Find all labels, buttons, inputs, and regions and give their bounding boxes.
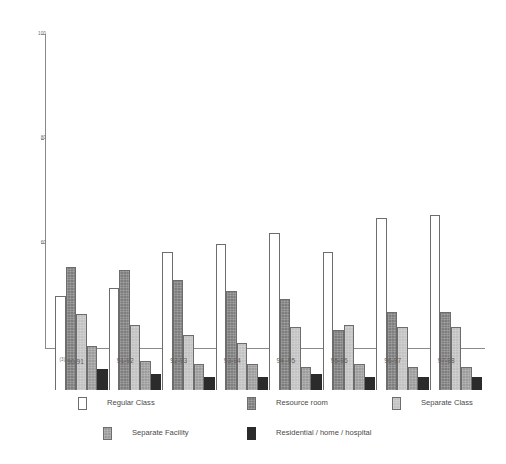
bar (247, 364, 258, 390)
bar (97, 369, 108, 390)
legend-swatch-icon (78, 397, 87, 410)
legend-item[interactable]: Regular Class (78, 397, 155, 410)
bar (216, 244, 227, 390)
bar-group (323, 76, 376, 390)
legend-item[interactable]: Separate Facility (103, 427, 189, 440)
y-axis-tick-mark (41, 34, 44, 35)
legend-item[interactable]: Residential / home / hospital (247, 427, 371, 440)
bar (140, 361, 151, 390)
y-axis-tick-mark (41, 139, 44, 140)
bar (66, 267, 77, 390)
x-axis-label: 92-93 (148, 358, 210, 365)
x-axis-label: 97-98 (416, 358, 478, 365)
bar (387, 312, 398, 390)
legend-item-label: Resource room (276, 399, 328, 407)
bar (109, 288, 120, 390)
x-axis-label: (3) 90-91 (41, 358, 103, 366)
bar-group (216, 76, 269, 390)
bar-group (430, 76, 483, 390)
x-axis-label: 96-97 (362, 358, 424, 365)
y-axis-tick-mark (41, 243, 44, 244)
bar (440, 312, 451, 390)
legend-item-label: Separate Facility (132, 429, 189, 437)
legend-item-label: Residential / home / hospital (276, 429, 371, 437)
bar (408, 367, 419, 391)
bar (226, 291, 237, 390)
bar (162, 252, 173, 390)
bar (173, 280, 184, 390)
legend-item-label: Regular Class (107, 399, 155, 407)
bar (237, 343, 248, 390)
legend-item-label: Separate Class (421, 399, 473, 407)
legend-swatch-icon (247, 427, 256, 440)
bar (301, 367, 312, 391)
x-axis-label-footnote: (3) (60, 357, 66, 362)
legend-item[interactable]: Resource room (247, 397, 328, 410)
legend-swatch-icon (392, 397, 401, 410)
y-axis-line (45, 34, 46, 348)
bar (194, 364, 205, 390)
legend-swatch-icon (247, 397, 256, 410)
bar (87, 346, 98, 390)
x-axis-label: 95-96 (309, 358, 371, 365)
bar (323, 252, 334, 390)
bar (280, 299, 291, 390)
bar (55, 296, 66, 390)
legend-item[interactable]: Separate Class (392, 397, 473, 410)
bar (119, 270, 130, 390)
chart-figure: 1008060 (3) 90-9191-9292-9393-9494 -9595… (0, 0, 506, 464)
chart-legend: Regular ClassResource roomSeparate Class… (0, 388, 506, 464)
bar (461, 367, 472, 391)
x-axis-label: 93-94 (202, 358, 264, 365)
plot-area: 1008060 (3) 90-9191-9292-9393-9494 -9595… (0, 0, 506, 390)
bar (354, 364, 365, 390)
bar (76, 314, 87, 390)
bar-group (55, 76, 108, 390)
bar-group (376, 76, 429, 390)
bar-group (162, 76, 215, 390)
bar (269, 233, 280, 390)
bar-group (269, 76, 322, 390)
x-axis-label: 94 -95 (255, 358, 317, 365)
x-axis-label: 91-92 (95, 358, 157, 365)
bar-group (109, 76, 162, 390)
legend-swatch-icon (103, 427, 112, 440)
